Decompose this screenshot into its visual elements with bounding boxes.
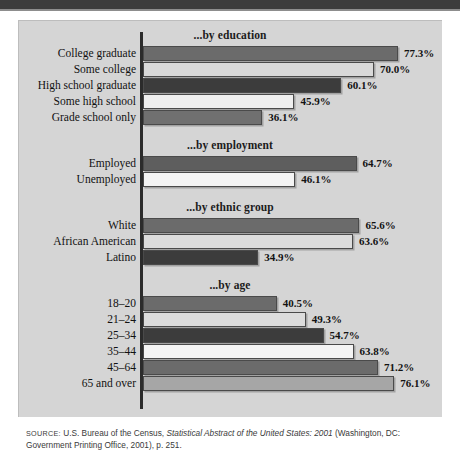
bar-category-label: Employed [89, 156, 136, 171]
bar-row: 45–6471.2% [18, 360, 442, 375]
bar-value-label: 46.1% [301, 172, 331, 187]
bar-value-label: 71.2% [384, 360, 414, 375]
bar-value-label: 77.3% [404, 46, 434, 61]
bar-row: 18–2040.5% [18, 296, 442, 311]
bar-value-label: 76.1% [400, 376, 430, 391]
bar-value-label: 34.9% [264, 250, 294, 265]
bar-value-label: 54.7% [330, 328, 360, 343]
bar [143, 312, 306, 327]
bar-category-label: Some high school [54, 94, 136, 109]
bar [143, 156, 357, 171]
bar-row: Some high school45.9% [18, 94, 442, 109]
bar [143, 344, 354, 359]
bar-value-label: 36.1% [268, 110, 298, 125]
bar-category-label: Grade school only [52, 110, 136, 125]
section-title: ...by education [18, 29, 442, 41]
section-title: ...by age [18, 279, 442, 291]
page-header-band [0, 0, 460, 9]
bar-category-label: Latino [106, 250, 136, 265]
bar-value-label: 65.6% [365, 218, 395, 233]
bar [143, 376, 394, 391]
bar [143, 328, 324, 343]
bar-row: Unemployed46.1% [18, 172, 442, 187]
bar [143, 172, 295, 187]
page-header-band-shadow [0, 9, 460, 11]
bar-row: College graduate77.3% [18, 46, 442, 61]
bar-category-label: White [108, 218, 136, 233]
bar-value-label: 70.0% [380, 62, 410, 77]
bar [143, 46, 398, 61]
section-title: ...by ethnic group [18, 201, 442, 213]
bar-row: 65 and over76.1% [18, 376, 442, 391]
source-label: SOURCE: [26, 429, 61, 438]
bar-value-label: 63.8% [360, 344, 390, 359]
bar-row: Some college70.0% [18, 62, 442, 77]
bar-value-label: 64.7% [363, 156, 393, 171]
bar-value-label: 60.1% [347, 78, 377, 93]
section-title: ...by employment [18, 139, 442, 151]
bar-row: Latino34.9% [18, 250, 442, 265]
bar-category-label: African American [53, 234, 136, 249]
bar [143, 94, 294, 109]
bar [143, 78, 341, 93]
source-title-italic: Statistical Abstract of the United State… [166, 428, 332, 438]
bar [143, 62, 374, 77]
bar-category-label: High school graduate [38, 78, 136, 93]
bar [143, 218, 359, 233]
bar-category-label: 65 and over [82, 376, 136, 391]
bar-value-label: 45.9% [300, 94, 330, 109]
bar [143, 360, 378, 375]
bar-row: 21–2449.3% [18, 312, 442, 327]
bar-row: White65.6% [18, 218, 442, 233]
bar-category-label: College graduate [58, 46, 136, 61]
chart-panel: ...by educationCollege graduate77.3%Some… [18, 20, 442, 417]
bar-category-label: 25–34 [107, 328, 136, 343]
bar [143, 110, 262, 125]
bar-row: African American63.6% [18, 234, 442, 249]
bar-category-label: 18–20 [107, 296, 136, 311]
bar-row: 25–3454.7% [18, 328, 442, 343]
bar [143, 250, 258, 265]
bar-value-label: 40.5% [283, 296, 313, 311]
source-text-part1: U.S. Bureau of the Census, [61, 428, 167, 438]
bar-value-label: 63.6% [359, 234, 389, 249]
bar-row: 35–4463.8% [18, 344, 442, 359]
bar-row: Employed64.7% [18, 156, 442, 171]
bar-category-label: 45–64 [107, 360, 136, 375]
bar-value-label: 49.3% [312, 312, 342, 327]
bar-row: High school graduate60.1% [18, 78, 442, 93]
bar-category-label: Unemployed [77, 172, 136, 187]
bar-category-label: Some college [74, 62, 136, 77]
bar-category-label: 35–44 [107, 344, 136, 359]
bar [143, 234, 353, 249]
bar [143, 296, 277, 311]
source-note: SOURCE: U.S. Bureau of the Census, Stati… [26, 428, 436, 451]
bar-row: Grade school only36.1% [18, 110, 442, 125]
bar-category-label: 21–24 [107, 312, 136, 327]
